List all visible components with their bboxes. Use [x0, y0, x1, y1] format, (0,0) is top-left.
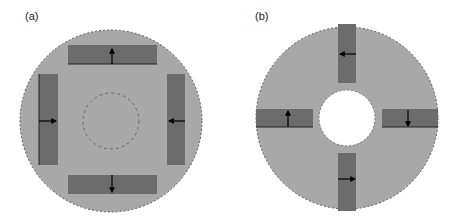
block-a-right [167, 74, 185, 165]
block-b-right [382, 109, 438, 127]
panel-a-label: (a) [25, 10, 38, 22]
block-a-left [39, 74, 58, 165]
block-a-bottom [68, 175, 157, 194]
figure-canvas: (a) (b) [0, 0, 457, 222]
panel-a: (a) [20, 10, 202, 212]
panel-b-label: (b) [255, 10, 268, 22]
panel-b: (b) [255, 10, 438, 211]
block-b-left [256, 109, 313, 127]
center-hole [319, 90, 375, 146]
block-b-top [338, 24, 356, 83]
block-b-bottom [338, 153, 356, 211]
block-a-top [68, 45, 157, 64]
